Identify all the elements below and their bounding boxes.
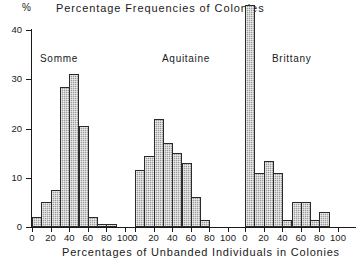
histogram-bar xyxy=(319,212,329,227)
x-axis-tick-label: 80 xyxy=(96,232,116,243)
plot-area xyxy=(0,0,361,264)
y-axis-tick-label: 0 xyxy=(0,221,22,232)
panel-label-brittany: Brittany xyxy=(272,53,312,64)
x-axis-tick-label: 40 xyxy=(162,232,182,243)
panel-label-aquitaine: Aquitaine xyxy=(162,53,210,64)
panel-label-somme: Somme xyxy=(40,53,78,64)
histogram-figure: % Percentage Frequencies of Colonies Som… xyxy=(0,0,361,264)
y-axis-tick-label: 20 xyxy=(0,123,22,134)
x-axis-tick-label: 20 xyxy=(144,232,164,243)
y-axis-tick xyxy=(26,30,32,31)
x-axis-tick-label: 60 xyxy=(291,232,311,243)
y-axis-tick xyxy=(26,79,32,80)
x-axis-tick-label: 20 xyxy=(41,232,61,243)
x-axis-tick-label: 60 xyxy=(181,232,201,243)
y-axis-tick-label: 10 xyxy=(0,172,22,183)
x-axis-tick-label: 100 xyxy=(328,232,348,243)
x-axis-tick-label: 0 xyxy=(125,232,145,243)
histogram-bar xyxy=(106,224,116,227)
histogram-bar xyxy=(200,220,210,227)
x-axis-tick-label: 0 xyxy=(235,232,255,243)
x-axis-tick-label: 0 xyxy=(22,232,42,243)
x-axis-tick-label: 80 xyxy=(199,232,219,243)
y-axis-tick-label: 30 xyxy=(0,73,22,84)
y-axis-tick xyxy=(26,129,32,130)
y-axis-tick xyxy=(26,178,32,179)
x-axis-tick-label: 60 xyxy=(78,232,98,243)
histogram-bar xyxy=(79,126,89,227)
y-axis-tick-label: 40 xyxy=(0,24,22,35)
x-axis-title: Percentages of Unbanded Individuals in C… xyxy=(62,246,340,258)
x-axis-tick-label: 20 xyxy=(254,232,274,243)
x-axis-tick-label: 40 xyxy=(59,232,79,243)
x-axis-tick-label: 80 xyxy=(309,232,329,243)
x-axis-tick-label: 40 xyxy=(272,232,292,243)
